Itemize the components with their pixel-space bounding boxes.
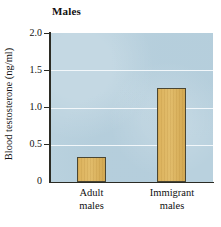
y-tick-label-0: 0 <box>18 176 42 186</box>
chart-title: Males <box>52 5 172 18</box>
gridline-1-0 <box>50 108 213 109</box>
y-tick-label-container-0: 0 <box>18 176 42 186</box>
bar-adult-males <box>77 157 106 182</box>
bar-immigrant-males <box>157 88 186 182</box>
y-tick-label-container-0-5: 0.5 <box>18 139 42 149</box>
x-tick-label-adult-males-line2: males <box>51 199 132 212</box>
y-axis-line <box>49 32 51 183</box>
y-tick-label-0-5: 0.5 <box>18 139 42 149</box>
y-tick-label-container-1-5: 1.5 <box>18 65 42 75</box>
x-tick-label-immigrant-males-line2: males <box>129 199 215 212</box>
x-tick-label-adult-males-line1: Adult <box>51 186 132 199</box>
y-axis-label-container: Blood testosterone (ng/ml) <box>0 24 16 184</box>
x-tick-label-immigrant-males-line1: Immigrant <box>129 186 215 199</box>
y-tick-label-2-0: 2.0 <box>18 28 42 38</box>
y-tick-label-container-1-0: 1.0 <box>18 102 42 112</box>
x-axis-line <box>49 182 214 184</box>
y-tick-label-container-2: 2.0 <box>18 28 42 38</box>
x-tick-label-immigrant-males: Immigrant males <box>129 186 215 212</box>
chart-figure: Males Blood testosterone (ng/ml) 2.0 1.5… <box>0 0 221 227</box>
plot-area <box>50 33 213 182</box>
gridline-0-5 <box>50 145 213 146</box>
x-tick-label-adult-males: Adult males <box>51 186 132 212</box>
y-axis-label: Blood testosterone (ng/ml) <box>3 48 14 161</box>
y-tick-label-1-0: 1.0 <box>18 102 42 112</box>
gridline-1-5 <box>50 70 213 71</box>
y-tick-label-1-5: 1.5 <box>18 65 42 75</box>
